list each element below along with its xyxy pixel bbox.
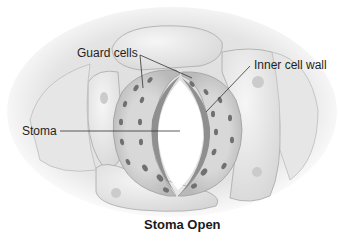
stoma-diagram: [0, 0, 338, 241]
nucleus: [111, 188, 121, 198]
nucleus: [100, 92, 108, 104]
label-stoma: Stoma: [22, 125, 57, 137]
label-guard-cells: Guard cells: [77, 47, 138, 59]
diagram-title: Stoma Open: [144, 218, 221, 231]
nucleus: [252, 76, 264, 88]
label-inner-cell-wall: Inner cell wall: [254, 59, 327, 71]
guard-cells: [113, 70, 242, 196]
nucleus: [252, 167, 262, 177]
